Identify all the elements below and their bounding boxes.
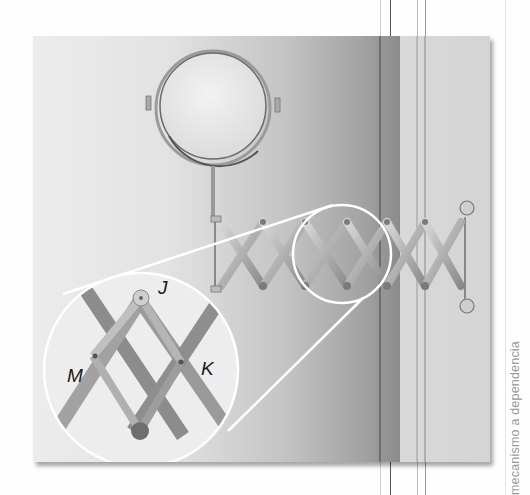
- inset-magnified-linkage: [44, 241, 238, 462]
- photo-background: J M K L: [33, 36, 490, 462]
- label-point-j: J: [158, 278, 168, 297]
- guide-line: [505, 0, 506, 495]
- rotated-margin-caption: mecanismo a depen­dencia: [508, 255, 522, 495]
- textbook-page: J M K L mecanismo a depen­dencia: [0, 0, 530, 495]
- mirror: [146, 51, 280, 216]
- label-point-m: M: [67, 366, 83, 385]
- label-point-k: K: [201, 359, 214, 378]
- scissor-arm: [211, 201, 474, 313]
- figure-photo: J M K L: [33, 36, 490, 462]
- label-point-l: L: [134, 461, 145, 462]
- mirror-illustration: [33, 36, 490, 462]
